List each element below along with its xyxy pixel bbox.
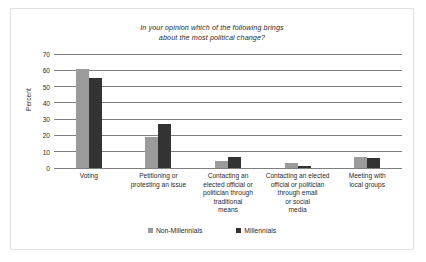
legend-swatch-icon	[148, 228, 153, 233]
x-axis-label-line: local groups	[326, 181, 408, 190]
y-axis-tick-label: 10	[20, 148, 50, 155]
x-axis-label-line: Meeting with	[326, 172, 408, 181]
y-axis-tick-label: 40	[20, 99, 50, 106]
chart-figure: In your opinion which of the following b…	[10, 8, 414, 250]
bar-non-millennials	[76, 69, 89, 168]
legend-swatch-icon	[236, 228, 241, 233]
y-axis-tick-label: 30	[20, 116, 50, 123]
x-axis-label-line: through email	[257, 189, 339, 198]
legend-item[interactable]: Non-Millennials	[148, 227, 202, 234]
bar-millennials	[158, 124, 171, 168]
y-axis-tick-label: 60	[20, 67, 50, 74]
bar-groups	[54, 54, 402, 168]
bar-group	[193, 54, 263, 168]
y-axis-tick-label: 50	[20, 83, 50, 90]
bar-millennials	[298, 166, 311, 168]
x-axis-label: Meeting withlocal groups	[326, 172, 408, 189]
bar-millennials	[89, 78, 102, 168]
bar-non-millennials	[215, 161, 228, 168]
x-axis-label-line: media	[257, 206, 339, 215]
bar-millennials	[228, 157, 241, 168]
bar-group	[124, 54, 194, 168]
bar-group	[263, 54, 333, 168]
x-axis-labels: VotingPetitioning orprotesting an issueC…	[54, 172, 402, 224]
chart-title-line-1: In your opinion which of the following b…	[140, 23, 284, 32]
chart-legend: Non-MillennialsMillennials	[11, 227, 413, 234]
legend-label: Millennials	[244, 227, 276, 234]
bar-group	[332, 54, 402, 168]
y-axis-tick-label: 70	[20, 51, 50, 58]
legend-item[interactable]: Millennials	[236, 227, 276, 234]
bar-non-millennials	[285, 163, 298, 168]
bar-non-millennials	[354, 157, 367, 168]
chart-title-line-2: about the most political change?	[11, 33, 413, 43]
y-axis-tick-label: 20	[20, 132, 50, 139]
bar-non-millennials	[145, 137, 158, 168]
bar-group	[54, 54, 124, 168]
legend-label: Non-Millennials	[156, 227, 202, 234]
plot-area: 010203040506070	[54, 54, 402, 168]
bar-millennials	[367, 158, 380, 168]
y-axis-tick-label: 0	[20, 165, 50, 172]
x-axis-label-line: or social	[257, 198, 339, 207]
chart-title: In your opinion which of the following b…	[11, 23, 413, 42]
